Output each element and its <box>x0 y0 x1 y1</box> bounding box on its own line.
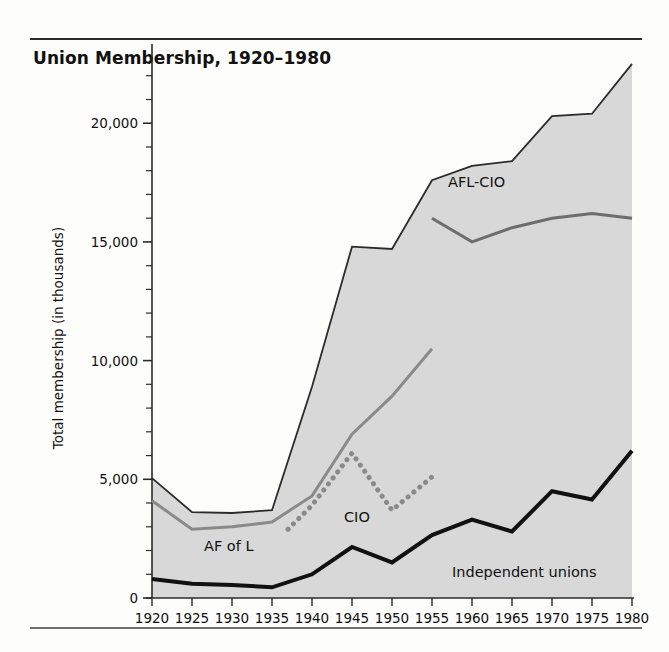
x-axis-tick-label: 1950 <box>375 610 409 626</box>
figure-container: Union Membership, 1920–1980 Total member… <box>0 0 669 652</box>
y-axis-tick-label: 0 <box>129 590 138 606</box>
area-fill-layer <box>152 64 632 598</box>
series-label-independent-unions: Independent unions <box>452 564 597 580</box>
total-membership-area <box>152 64 632 598</box>
x-axis-tick-label: 1965 <box>495 610 529 626</box>
x-axis-tick-label: 1935 <box>255 610 289 626</box>
y-axis-tick-label: 15,000 <box>91 234 138 250</box>
chart-plot: AF of LCIOAFL-CIOIndependent unions 05,0… <box>0 0 669 652</box>
y-axis-tick-label: 20,000 <box>91 115 138 131</box>
x-axis-tick-label: 1940 <box>295 610 329 626</box>
x-axis-tick-label: 1925 <box>175 610 209 626</box>
y-axis-tick-label: 10,000 <box>91 353 138 369</box>
x-axis-tick-label: 1955 <box>415 610 449 626</box>
y-axis-tick-label: 5,000 <box>99 471 138 487</box>
x-axis-tick-label: 1920 <box>135 610 169 626</box>
series-label-afl-cio: AFL-CIO <box>448 174 505 190</box>
series-label-cio: CIO <box>344 509 370 525</box>
x-axis-tick-label: 1970 <box>535 610 569 626</box>
x-axis-tick-label: 1975 <box>575 610 609 626</box>
series-label-af-of-l: AF of L <box>204 538 254 554</box>
x-axis-tick-label: 1930 <box>215 610 249 626</box>
x-axis-tick-label: 1960 <box>455 610 489 626</box>
x-axis-tick-label: 1980 <box>615 610 649 626</box>
x-axis-tick-label: 1945 <box>335 610 369 626</box>
